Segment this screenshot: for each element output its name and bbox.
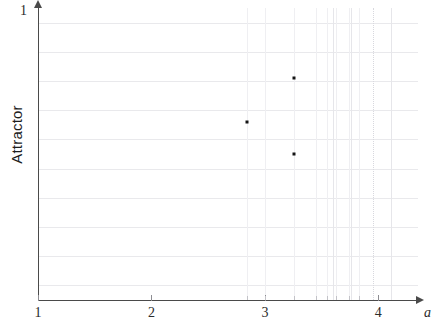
gridline-vertical-minor [327,8,328,300]
plot-area [38,8,418,300]
gridline-vertical [333,8,334,300]
gridline-vertical [373,8,374,300]
gridline-horizontal [38,256,418,257]
y-axis-top-tick-label: 1 [20,3,27,19]
gridline-horizontal [38,110,418,111]
x-axis-minor-tick [265,296,266,300]
gridline-horizontal [38,139,418,140]
gridline-vertical-minor [336,8,337,300]
x-axis-tick-label: 4 [364,305,392,321]
y-axis-line [38,6,39,301]
gridline-horizontal [38,285,418,286]
x-axis-minor-tick [294,296,295,300]
y-axis-arrow-icon [34,0,42,8]
x-axis-title: a [424,305,431,321]
y-axis-title: Attractor [8,75,25,195]
x-axis-minor-tick [336,296,337,300]
gridline-horizontal [38,198,418,199]
gridline-vertical-minor [316,8,317,300]
data-point [293,153,296,156]
x-axis-tick [378,295,379,301]
x-axis-tick-label: 3 [251,305,279,321]
gridline-vertical [351,8,352,300]
x-axis-tick-label: 1 [24,305,52,321]
x-axis-minor-tick [359,296,360,300]
gridline-horizontal [38,52,418,53]
gridline-horizontal [38,227,418,228]
x-axis-tick [38,295,39,301]
gridline-vertical-minor [349,8,350,300]
gridline-vertical-minor [359,8,360,300]
gridline-horizontal [38,81,418,82]
x-axis-minor-tick [247,296,248,300]
bifurcation-diagram-figure: 1 Attractor 1234 a [0,0,443,330]
x-axis-line [38,300,418,301]
gridline-vertical-minor [247,8,248,300]
x-axis-arrow-icon [416,296,424,304]
data-point [293,77,296,80]
data-point [245,120,248,123]
x-axis-minor-tick [316,296,317,300]
x-axis-minor-tick [327,296,328,300]
gridline-vertical [391,8,392,300]
gridline-horizontal [38,169,418,170]
x-axis-minor-tick [349,296,350,300]
x-axis-tick-label: 2 [137,305,165,321]
x-axis-tick [151,295,152,301]
gridline-horizontal [38,23,418,24]
gridline-vertical-minor [265,8,266,300]
